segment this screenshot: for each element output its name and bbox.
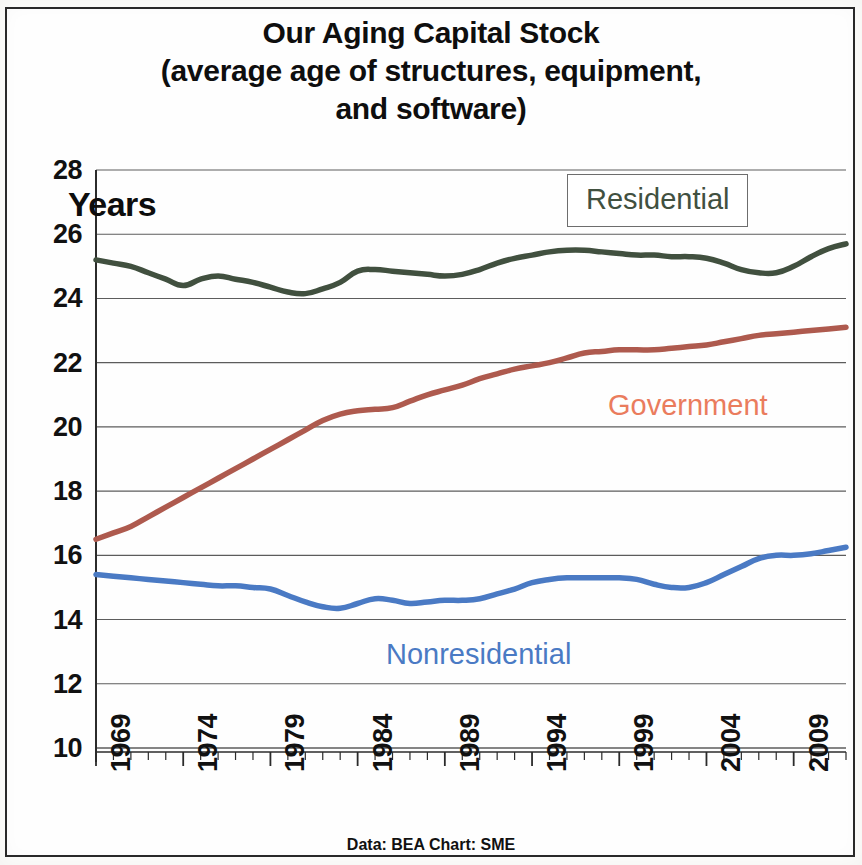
x-axis-tick-label: 2009 [804, 714, 835, 772]
series-label-nonresidential: Nonresidential [386, 638, 571, 671]
series-label-government: Government [608, 389, 768, 422]
x-axis-tick-label: 2004 [716, 714, 747, 772]
y-axis-tick-label: 14 [12, 604, 82, 635]
y-axis-tick-label: 10 [12, 733, 82, 764]
y-axis-tick-label: 18 [12, 476, 82, 507]
x-axis-tick-label: 1994 [542, 714, 573, 772]
series-label-residential: Residential [567, 174, 748, 227]
y-axis-tick-label: 12 [12, 668, 82, 699]
series-line-residential [96, 244, 846, 294]
y-axis-tick-label: 20 [12, 411, 82, 442]
y-axis-tick-label: 24 [12, 283, 82, 314]
series-line-nonresidential [96, 547, 846, 608]
y-axis-tick-label: 28 [12, 155, 82, 186]
x-axis-tick-label: 1979 [280, 714, 311, 772]
y-axis-tick-label: 22 [12, 347, 82, 378]
y-axis-title: Years [68, 185, 156, 224]
chart-page: Our Aging Capital Stock (average age of … [0, 0, 862, 865]
x-axis-tick-label: 1969 [106, 714, 137, 772]
series-line-government [96, 327, 846, 539]
x-axis-tick-label: 1984 [368, 714, 399, 772]
x-axis-tick-label: 1974 [193, 714, 224, 772]
x-axis-tick-label: 1999 [629, 714, 660, 772]
y-axis-tick-label: 16 [12, 540, 82, 571]
x-axis-tick-label: 1989 [455, 714, 486, 772]
chart-source-caption: Data: BEA Chart: SME [0, 836, 862, 854]
line-chart: 28262422201816141210 1969197419791984198… [0, 0, 862, 865]
